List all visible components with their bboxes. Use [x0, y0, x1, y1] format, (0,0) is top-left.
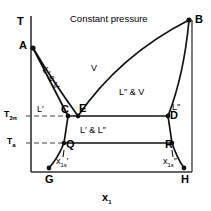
- point-label-R: R: [165, 139, 173, 150]
- region-label-liquid-prime: L′: [37, 105, 44, 114]
- leader-Q: [63, 150, 64, 157]
- region-label-two-liquid: L′ & L″: [80, 126, 106, 135]
- tick-label-Ta: Ta: [7, 137, 16, 148]
- tick-label-T3n-sub: 3π: [9, 115, 17, 121]
- point-label-C: C: [61, 104, 69, 115]
- x-axis-label-sub: 1: [108, 199, 111, 205]
- point-label-G: G: [45, 174, 54, 185]
- point-label-Q: Q: [66, 139, 75, 150]
- tick-label-T3n: T3π: [4, 110, 17, 121]
- x1s-dbl-mark: ″: [174, 156, 177, 166]
- point-label-H: H: [181, 174, 189, 185]
- chart-title: Constant pressure: [70, 14, 148, 24]
- marker-H: [182, 166, 187, 171]
- x1s-prime-mark: ′: [67, 156, 69, 166]
- tick-label-Ta-sub: a: [12, 142, 15, 148]
- point-label-E: E: [79, 103, 86, 114]
- region-label-vapor: V: [91, 64, 97, 73]
- region-label-liquid-dbl: L″: [172, 103, 180, 112]
- phase-diagram-figure: Constant pressure T x1 T3π Ta A B C E D …: [0, 0, 211, 211]
- leader-R: [172, 150, 173, 157]
- composition-label-x1s-dbl: x1s″: [163, 157, 177, 168]
- region-label-liquid-dbl-vapor: L″ & V: [119, 88, 144, 97]
- marker-G: [47, 166, 52, 171]
- composition-label-x1s-prime: x1s′: [56, 157, 69, 168]
- marker-A: [30, 45, 35, 50]
- point-label-A: A: [19, 40, 27, 51]
- x-axis-label: x1: [102, 192, 111, 205]
- point-label-B: B: [195, 14, 203, 25]
- y-axis-label: T: [17, 16, 24, 27]
- marker-E: [76, 114, 81, 119]
- marker-B: [186, 17, 191, 22]
